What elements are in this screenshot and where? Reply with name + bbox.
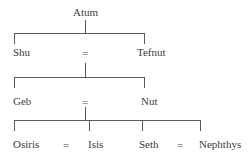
marriage-symbol-shu-tefnut: = xyxy=(82,47,88,59)
drop-line-nut xyxy=(144,77,145,88)
descent-line-shu-tefnut xyxy=(85,63,86,77)
node-geb: Geb xyxy=(13,95,31,107)
sibling-bar-gen4 xyxy=(14,120,201,121)
drop-line-nephthys xyxy=(200,120,201,131)
node-isis: Isis xyxy=(88,138,103,150)
node-seth: Seth xyxy=(139,138,159,150)
node-shu: Shu xyxy=(13,46,30,58)
node-nut: Nut xyxy=(141,95,158,107)
descent-line-atum xyxy=(85,20,86,33)
drop-line-isis xyxy=(89,120,90,131)
node-nephthys: Nephthys xyxy=(199,138,241,150)
node-tefnut: Tefnut xyxy=(137,46,166,58)
drop-line-shu xyxy=(14,33,15,44)
node-atum: Atum xyxy=(73,6,98,18)
drop-line-osiris xyxy=(14,120,15,131)
drop-line-geb xyxy=(14,77,15,88)
node-osiris: Osiris xyxy=(13,138,39,150)
drop-line-tefnut xyxy=(144,33,145,44)
sibling-bar-gen3 xyxy=(14,77,145,78)
sibling-bar-gen2 xyxy=(14,33,145,34)
descent-line-geb-nut xyxy=(85,107,86,120)
marriage-symbol-osiris-isis: = xyxy=(63,139,69,151)
drop-line-seth xyxy=(142,120,143,131)
marriage-symbol-seth-nephthys: = xyxy=(177,139,183,151)
